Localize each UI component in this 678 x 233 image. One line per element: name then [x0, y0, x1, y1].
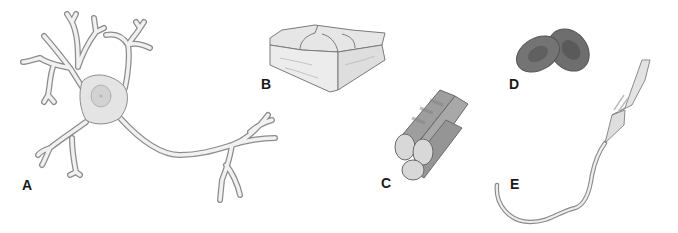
panel-label-d: D	[509, 77, 519, 91]
red-blood-cells-illustration	[510, 21, 597, 80]
panel-label-a: A	[22, 178, 32, 192]
panel-label-c: C	[381, 176, 391, 190]
illustrations	[0, 0, 678, 233]
panel-label-e: E	[510, 177, 519, 191]
epithelial-block-illustration	[270, 25, 385, 92]
muscle-bundle-illustration	[395, 90, 468, 180]
panel-label-b: B	[261, 77, 271, 91]
neuron-illustration	[23, 14, 275, 200]
sperm-illustration	[497, 60, 650, 222]
cell-types-diagram: A B C D E	[0, 0, 678, 233]
